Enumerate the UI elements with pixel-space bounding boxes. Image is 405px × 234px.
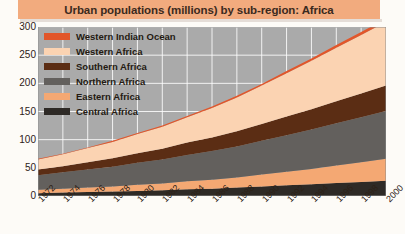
legend-label: Eastern Africa [76, 92, 140, 101]
legend-swatch-western-africa [44, 48, 70, 55]
legend-item: Eastern Africa [44, 89, 176, 103]
legend-swatch-eastern-africa [44, 93, 70, 100]
legend-item: Western Africa [44, 44, 176, 58]
y-axis-tick-250: 250 [2, 50, 36, 60]
legend-swatch-northern-africa [44, 78, 70, 85]
x-axis-tick-2000: 2000 [384, 183, 405, 204]
legend-swatch-western-indian-ocean [44, 33, 70, 40]
legend-item: Central Africa [44, 104, 176, 118]
y-axis: 050100150200250300 [0, 0, 36, 220]
legend-item: Northern Africa [44, 74, 176, 88]
legend-label: Southern Africa [76, 62, 147, 71]
x-axis: 1972197419761978198019821984198619881990… [38, 197, 386, 234]
legend-label: Northern Africa [76, 77, 145, 86]
y-axis-tick-200: 200 [2, 78, 36, 88]
chart-legend: Western Indian OceanWestern AfricaSouthe… [44, 29, 176, 119]
title-bar-shadow [20, 19, 382, 22]
legend-label: Central Africa [76, 107, 138, 116]
y-axis-tick-100: 100 [2, 135, 36, 145]
legend-item: Western Indian Ocean [44, 29, 176, 43]
y-axis-tick-300: 300 [2, 22, 36, 32]
legend-swatch-central-africa [44, 108, 70, 115]
legend-item: Southern Africa [44, 59, 176, 73]
chart-screenshot: Urban populations (millions) by sub-regi… [0, 0, 405, 234]
y-axis-tick-0: 0 [2, 191, 36, 201]
y-axis-tick-50: 50 [2, 163, 36, 173]
legend-label: Western Indian Ocean [76, 32, 176, 41]
legend-swatch-southern-africa [44, 63, 70, 70]
y-axis-tick-150: 150 [2, 107, 36, 117]
legend-label: Western Africa [76, 47, 143, 56]
chart-title-bar: Urban populations (millions) by sub-regi… [18, 0, 380, 19]
page-title: Urban populations (millions) by sub-regi… [64, 4, 333, 16]
